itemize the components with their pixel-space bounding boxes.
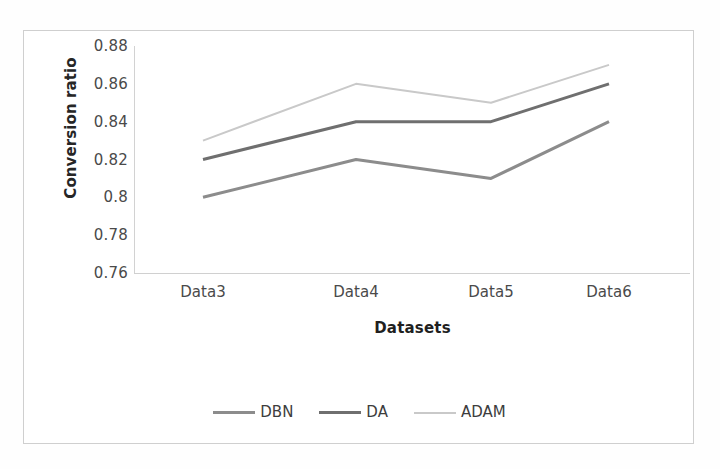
- legend-item-dbn[interactable]: DBN: [213, 405, 293, 420]
- legend-swatch-icon: [414, 412, 456, 414]
- y-axis-tick-label: 0.76: [66, 266, 128, 281]
- series-line-dbn: [203, 122, 609, 198]
- chart-frame: Conversion ratio 0.880.860.840.820.80.78…: [23, 30, 694, 444]
- x-axis-title: Datasets: [135, 319, 690, 337]
- y-axis-tick-label: 0.78: [66, 228, 128, 243]
- scanned-page: Conversion ratio 0.880.860.840.820.80.78…: [0, 0, 720, 469]
- y-axis-tick-label: 0.86: [66, 77, 128, 92]
- plot-area: [135, 46, 690, 273]
- legend-item-da[interactable]: DA: [319, 405, 388, 420]
- legend-swatch-icon: [213, 411, 255, 414]
- x-axis-tick-labels: Data3Data4Data5Data6: [135, 283, 690, 305]
- y-axis-tick-label: 0.82: [66, 153, 128, 168]
- chart-legend: DBNDAADAM: [24, 405, 695, 420]
- series-lines: [135, 46, 690, 273]
- x-axis-tick-label: Data5: [431, 283, 551, 301]
- legend-item-adam[interactable]: ADAM: [414, 405, 506, 420]
- y-axis-tick-labels: 0.880.860.840.820.80.780.76: [60, 46, 128, 274]
- figure-caption: [0, 452, 720, 469]
- y-axis-tick-label: 0.88: [66, 39, 128, 54]
- x-axis-tick-label: Data6: [549, 283, 669, 301]
- legend-label: DBN: [260, 405, 293, 420]
- x-axis-line: [134, 273, 690, 274]
- x-axis-tick-label: Data4: [296, 283, 416, 301]
- legend-swatch-icon: [319, 411, 361, 414]
- series-line-da: [203, 84, 609, 160]
- y-axis-tick-label: 0.8: [66, 190, 128, 205]
- x-axis-tick-label: Data3: [143, 283, 263, 301]
- legend-label: DA: [366, 405, 388, 420]
- y-axis-tick-label: 0.84: [66, 115, 128, 130]
- legend-label: ADAM: [461, 405, 506, 420]
